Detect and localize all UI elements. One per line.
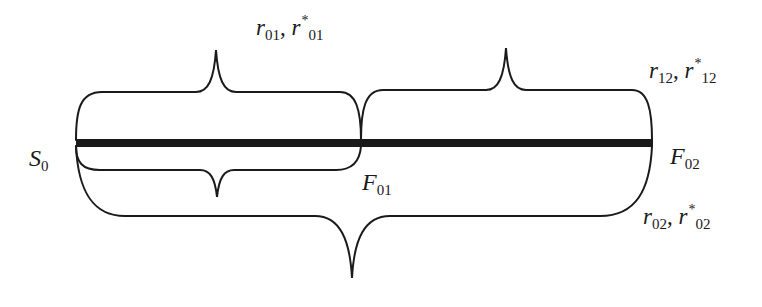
label-f01: F01 — [362, 170, 392, 194]
brace-lower-inner — [76, 146, 361, 197]
brace-upper-left — [76, 50, 361, 140]
diagram-lines — [0, 0, 762, 307]
brace-upper-right — [361, 48, 652, 140]
diagram-canvas: S0 F01 F02 r01, r*01 r12, r*12 r02, r*02 — [0, 0, 762, 307]
brace-lower-outer — [76, 146, 652, 278]
segment-bar — [76, 139, 653, 147]
label-f02: F02 — [670, 144, 700, 168]
label-r01: r01, r*01 — [256, 16, 323, 39]
label-r02: r02, r*02 — [643, 205, 710, 228]
label-r12: r12, r*12 — [649, 59, 716, 82]
label-s0: S0 — [29, 146, 49, 170]
